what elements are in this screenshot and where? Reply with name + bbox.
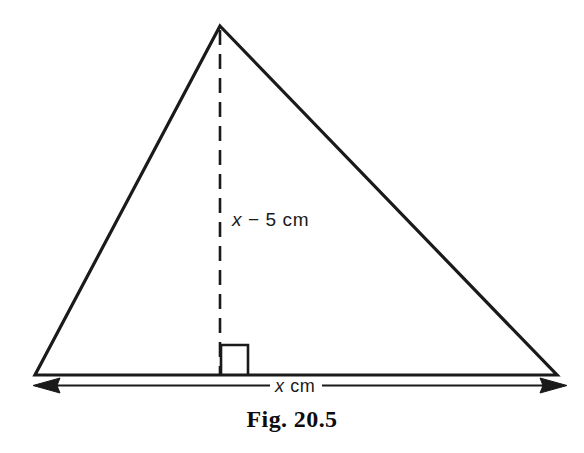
triangle-outline: [35, 26, 557, 375]
figure-container: x − 5 cm x cm Fig. 20.5: [0, 0, 584, 453]
base-label-rest: cm: [285, 376, 316, 396]
height-label: x − 5 cm: [232, 210, 309, 229]
dimension-arrow-left-icon: [33, 378, 60, 393]
height-label-rest: − 5 cm: [242, 209, 309, 230]
base-label: x cm: [270, 377, 320, 395]
right-angle-marker: [221, 345, 248, 375]
dimension-arrow-right-icon: [540, 378, 567, 393]
figure-caption: Fig. 20.5: [0, 406, 584, 432]
base-label-variable: x: [275, 376, 285, 396]
height-label-variable: x: [232, 209, 242, 230]
